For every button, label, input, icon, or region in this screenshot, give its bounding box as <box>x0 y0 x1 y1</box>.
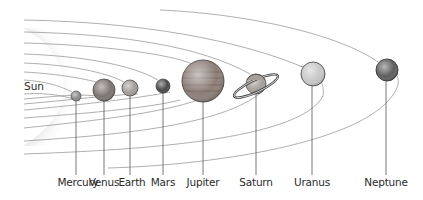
solar-system-diagram: Sun Mercury Venus Earth Mars Jupiter Sat… <box>0 0 423 200</box>
planet-mercury <box>71 91 81 101</box>
label-sun: Sun <box>24 80 44 92</box>
diagram-canvas <box>0 0 423 200</box>
planet-venus <box>93 79 115 101</box>
label-saturn: Saturn <box>239 176 272 188</box>
planet-jupiter <box>182 60 224 102</box>
planet-earth <box>122 80 138 96</box>
label-mars: Mars <box>151 176 175 188</box>
planet-neptune <box>376 59 398 81</box>
label-earth: Earth <box>118 176 145 188</box>
label-uranus: Uranus <box>294 176 330 188</box>
label-neptune: Neptune <box>364 176 407 188</box>
planet-uranus <box>301 62 325 86</box>
label-jupiter: Jupiter <box>187 176 220 188</box>
label-venus: Venus <box>89 176 120 188</box>
planet-mars <box>156 79 170 93</box>
